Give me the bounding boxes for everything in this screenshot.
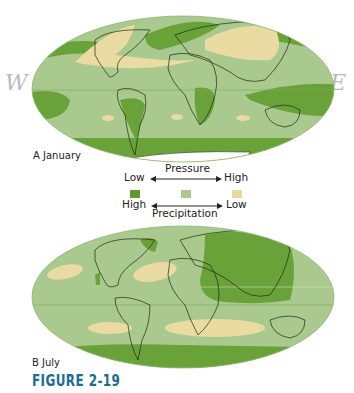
legend-pressure-low: Low xyxy=(124,171,145,183)
legend-swatch-dark xyxy=(130,190,140,198)
legend-pressure-high: High xyxy=(224,171,248,183)
pressure-arrow-icon xyxy=(150,175,222,183)
legend-precip-title: Precipitation xyxy=(152,207,218,219)
figure-number: FIGURE 2-19 xyxy=(32,372,120,390)
legend-swatch-mid xyxy=(181,190,191,198)
panel-b-label: B July xyxy=(32,357,60,368)
legend: Pressure Low High High Low Precipitation xyxy=(120,162,255,222)
legend-precip-low: Low xyxy=(226,198,247,210)
january-map xyxy=(0,0,354,170)
legend-swatch-tan xyxy=(232,190,242,198)
legend-pressure-title: Pressure xyxy=(165,162,210,174)
legend-precip-high: High xyxy=(122,198,146,210)
july-map xyxy=(0,220,354,380)
panel-a-label: A January xyxy=(33,150,81,161)
